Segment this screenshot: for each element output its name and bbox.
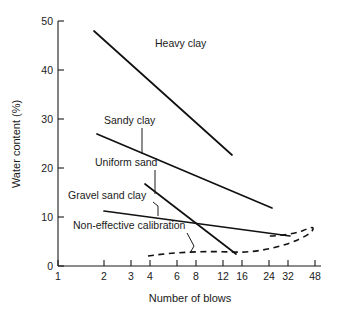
y-tick-label-40: 40 — [41, 64, 53, 76]
series-label-uniform-sand: Uniform sand — [95, 156, 158, 168]
x-tick-label-16: 16 — [236, 270, 248, 282]
series-label-sandy-clay: Sandy clay — [104, 114, 156, 126]
x-tick-label-1: 1 — [55, 270, 61, 282]
x-tick-labels: 1 2 3 4 6 8 12 16 24 32 48 — [55, 270, 321, 282]
x-tick-marks — [58, 260, 315, 266]
x-tick-label-48: 48 — [309, 270, 321, 282]
x-tick-label-3: 3 — [128, 270, 134, 282]
y-tick-label-20: 20 — [41, 162, 53, 174]
y-axis-title: Water content (%) — [10, 100, 22, 188]
y-tick-label-50: 50 — [41, 15, 53, 27]
x-tick-label-2: 2 — [101, 270, 107, 282]
leader-line-gravel-sand-clay — [153, 202, 158, 216]
x-tick-label-24: 24 — [263, 270, 275, 282]
series-label-heavy-clay: Heavy clay — [155, 37, 207, 49]
y-tick-labels: 0 10 20 30 40 50 — [41, 15, 53, 272]
y-tick-label-10: 10 — [41, 211, 53, 223]
series-line-heavy-clay — [94, 31, 232, 155]
series-label-gravel-sand-clay: Gravel sand clay — [68, 189, 147, 201]
water-content-vs-blows-chart: 0 10 20 30 40 50 1 2 3 4 6 — [0, 0, 337, 316]
y-tick-label-30: 30 — [41, 113, 53, 125]
x-tick-label-32: 32 — [282, 270, 294, 282]
chart-container: 0 10 20 30 40 50 1 2 3 4 6 — [0, 0, 337, 316]
leader-line-non-effective-calibration — [187, 233, 194, 253]
x-tick-label-4: 4 — [147, 270, 153, 282]
x-tick-label-6: 6 — [174, 270, 180, 282]
series-label-non-effective-calibration: Non-effective calibration — [73, 219, 186, 231]
x-axis-title: Number of blows — [149, 292, 232, 304]
x-tick-label-12: 12 — [217, 270, 229, 282]
y-tick-label-0: 0 — [47, 260, 53, 272]
y-tick-marks — [58, 21, 64, 266]
x-tick-label-8: 8 — [193, 270, 199, 282]
series-line-non-effective-calibration — [148, 228, 313, 256]
